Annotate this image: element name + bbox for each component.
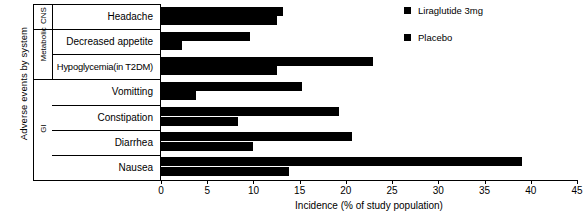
category-label: Nausea bbox=[35, 155, 157, 180]
x-tick-label: 45 bbox=[562, 185, 588, 196]
legend-swatch-icon bbox=[404, 7, 411, 14]
x-tick bbox=[253, 180, 254, 184]
x-tick-label: 20 bbox=[331, 185, 361, 196]
label-divider bbox=[52, 130, 161, 131]
group-column-divider bbox=[52, 4, 53, 79]
x-tick-label: 35 bbox=[470, 185, 500, 196]
label-table-left-border bbox=[33, 4, 34, 180]
category-label: Vomitting bbox=[35, 79, 157, 104]
legend-item-liraglutide: Liraglutide 3mg bbox=[404, 5, 483, 16]
legend-item-placebo: Placebo bbox=[404, 32, 483, 43]
x-tick bbox=[392, 180, 393, 184]
bar bbox=[161, 41, 182, 50]
x-tick bbox=[531, 180, 532, 184]
chart-figure: Adverse events by system CNS Metabolic G… bbox=[0, 0, 588, 218]
bar bbox=[161, 142, 253, 151]
legend-label: Placebo bbox=[418, 32, 452, 43]
label-divider bbox=[52, 105, 161, 106]
category-label: Headache bbox=[35, 4, 157, 29]
x-tick bbox=[485, 180, 486, 184]
category-label: Constipation bbox=[35, 105, 157, 130]
x-tick bbox=[438, 180, 439, 184]
plot-area bbox=[161, 4, 577, 180]
bar bbox=[161, 157, 522, 166]
x-tick-label: 15 bbox=[285, 185, 315, 196]
x-axis-line bbox=[161, 180, 577, 181]
x-tick-label: 40 bbox=[516, 185, 546, 196]
legend-swatch-icon bbox=[404, 34, 411, 41]
x-tick bbox=[207, 180, 208, 184]
x-axis-title: Incidence (% of study population) bbox=[161, 200, 577, 211]
x-tick-label: 30 bbox=[423, 185, 453, 196]
category-label: Diarrhea bbox=[35, 130, 157, 155]
bar bbox=[161, 32, 250, 41]
x-tick bbox=[577, 180, 578, 184]
x-tick-label: 25 bbox=[377, 185, 407, 196]
x-tick-label: 10 bbox=[238, 185, 268, 196]
x-tick-label: 5 bbox=[192, 185, 222, 196]
x-tick bbox=[161, 180, 162, 184]
category-label: Decreased appetite bbox=[35, 29, 157, 54]
x-tick bbox=[346, 180, 347, 184]
bar bbox=[161, 57, 373, 66]
label-divider bbox=[52, 54, 161, 55]
bar bbox=[161, 82, 302, 91]
y-axis-title: Adverse events by system bbox=[18, 0, 29, 169]
bar bbox=[161, 132, 352, 141]
bar bbox=[161, 117, 238, 126]
bar bbox=[161, 167, 289, 176]
bar bbox=[161, 107, 339, 116]
x-tick-label: 0 bbox=[146, 185, 176, 196]
category-label: Hypoglycemia(in T2DM) bbox=[35, 54, 157, 79]
label-divider bbox=[33, 180, 161, 181]
bar bbox=[161, 16, 277, 25]
label-divider bbox=[52, 155, 161, 156]
legend-label: Liraglutide 3mg bbox=[418, 5, 483, 16]
bar bbox=[161, 91, 196, 100]
x-tick bbox=[300, 180, 301, 184]
bar bbox=[161, 66, 277, 75]
chart-legend: Liraglutide 3mg Placebo bbox=[404, 5, 483, 59]
bar bbox=[161, 7, 283, 16]
